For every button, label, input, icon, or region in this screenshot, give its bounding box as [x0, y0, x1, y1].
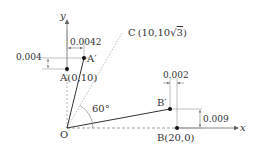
b-prime-label: B′ [157, 97, 167, 108]
x-axis-label: x [240, 122, 246, 133]
a-label: A(0,10) [59, 72, 97, 83]
angle-label: 60° [92, 103, 110, 114]
a-horizontal-dim-label: 0.0042 [70, 37, 102, 47]
b-vertical-dim-label: 0.009 [203, 114, 229, 124]
point-a-prime [82, 56, 86, 60]
point-b-prime [168, 107, 172, 111]
b-label: B(20,0) [157, 132, 195, 143]
oa-prime-line [67, 58, 84, 128]
b-horizontal-dim-label: 0.002 [163, 70, 189, 80]
origin-label: O [60, 129, 68, 140]
point-a [65, 67, 69, 71]
a-vertical-dim-label: 0.004 [16, 52, 42, 62]
ob-prime-line [67, 109, 170, 128]
diagram-svg: y x O 0.0042 0.004 A′ A(0,10) C(10,10√3)… [0, 0, 259, 152]
diagram-canvas: y x O 0.0042 0.004 A′ A(0,10) C(10,10√3)… [0, 0, 259, 152]
a-prime-label: A′ [86, 53, 97, 64]
point-b [175, 126, 179, 130]
y-axis-label: y [59, 10, 66, 21]
c-label: C(10,10√3) [128, 27, 187, 38]
